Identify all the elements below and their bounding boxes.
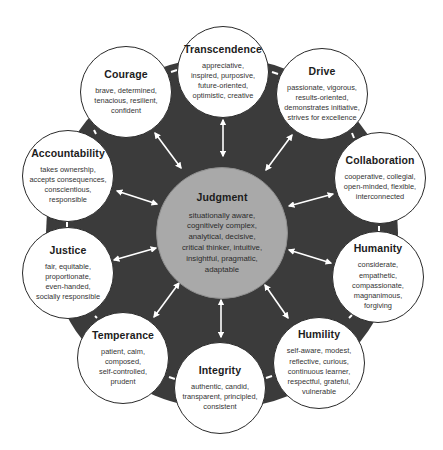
node-title: Humanity (354, 242, 403, 254)
center-node-judgment: Judgment situationally aware, cognitivel… (156, 167, 288, 299)
node-description: fair, equitable, proportionate, even-han… (36, 262, 100, 303)
node-courage: Courage brave, determined, tenacious, re… (80, 46, 172, 138)
node-accountability: Accountability takes ownership, accepts … (22, 130, 114, 222)
node-description: patient, calm, composed, self-controlled… (99, 347, 147, 388)
node-description: brave, determined, tenacious, resilient,… (94, 86, 157, 117)
node-description: cooperative, collegial, open-minded, fle… (344, 172, 416, 203)
node-title: Accountability (31, 147, 105, 159)
node-integrity: Integrity authentic, candid, transparent… (174, 342, 266, 434)
node-title: Justice (50, 244, 87, 256)
node-humility: Humility self-aware, modest, reflective,… (273, 317, 365, 409)
center-node-title: Judgment (197, 191, 248, 203)
node-title: Integrity (199, 364, 241, 376)
node-description: considerate, empathetic, compassionate, … (352, 260, 404, 311)
node-title: Transcendence (184, 43, 262, 55)
node-transcendence: Transcendence appreciative, inspired, pu… (177, 26, 269, 118)
node-title: Temperance (92, 329, 154, 341)
node-title: Humility (298, 328, 340, 340)
node-humanity: Humanity considerate, empathetic, compas… (332, 231, 424, 323)
center-node-description: situationally aware, cognitively complex… (182, 211, 262, 276)
node-collaboration: Collaboration cooperative, collegial, op… (334, 132, 426, 224)
node-description: authentic, candid, transparent, principl… (182, 382, 257, 413)
node-description: appreciative, inspired, purposive, futur… (191, 61, 255, 102)
node-title: Courage (104, 68, 147, 80)
node-title: Drive (309, 65, 336, 77)
node-description: passionate, vigorous, results-oriented, … (284, 83, 360, 124)
node-drive: Drive passionate, vigorous, results-orie… (276, 48, 368, 140)
node-description: takes ownership, accepts consequences, c… (29, 165, 106, 206)
node-description: self-aware, modest, reflective, curious,… (287, 346, 352, 397)
node-title: Collaboration (346, 154, 415, 166)
node-temperance: Temperance patient, calm, composed, self… (77, 312, 169, 404)
node-justice: Justice fair, equitable, proportionate, … (22, 227, 114, 319)
